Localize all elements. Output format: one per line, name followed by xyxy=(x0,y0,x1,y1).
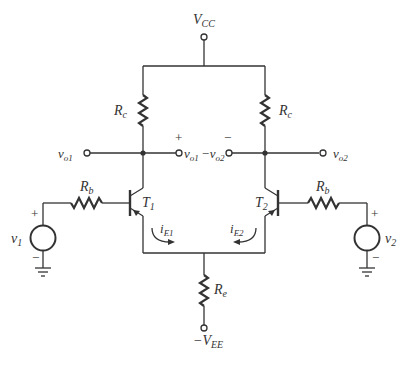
vo1-plus-sign: + xyxy=(175,130,182,145)
ie1-arrowhead xyxy=(168,239,175,245)
vee-terminal xyxy=(201,325,207,331)
re-resistor xyxy=(200,275,208,306)
vee-label: −VEE xyxy=(193,333,223,350)
differential-amplifier-schematic: VCC Rc Rc + − vo1 vo1 −vo2 vo2 Rb Rb T1 … xyxy=(0,0,412,365)
vo1-left-terminal xyxy=(84,150,90,156)
v2-minus-sign: − xyxy=(372,250,379,265)
v1-minus-sign: − xyxy=(32,250,39,265)
junction-left xyxy=(140,150,145,155)
rc-left-label: Rc xyxy=(113,103,128,120)
rb-right-label: Rb xyxy=(315,179,330,196)
vo2-minus-sign: − xyxy=(224,130,231,145)
vcc-terminal xyxy=(201,34,207,40)
rb-left-resistor xyxy=(71,198,102,208)
ie2-arrowhead xyxy=(233,239,240,245)
vo2-mid-label: −vo2 xyxy=(201,146,225,163)
v1-plus-sign: + xyxy=(31,206,38,221)
rb-right-resistor xyxy=(308,198,339,208)
ie1-label: iE1 xyxy=(160,221,174,238)
t2-label: T2 xyxy=(255,195,268,212)
rc-left-resistor xyxy=(139,95,147,126)
vcc-label: VCC xyxy=(193,12,215,29)
vo2-mid-terminal xyxy=(226,150,232,156)
v2-label: v2 xyxy=(385,231,396,248)
junction-right xyxy=(262,150,267,155)
v2-source xyxy=(355,226,380,251)
vo2-right-terminal xyxy=(320,150,326,156)
v1-label: v1 xyxy=(11,231,22,248)
re-label: Re xyxy=(213,282,228,299)
vo1-left-label: vo1 xyxy=(58,146,73,163)
rc-right-label: Rc xyxy=(278,103,293,120)
ie2-label: iE2 xyxy=(230,221,244,238)
vo2-right-label: vo2 xyxy=(333,146,348,163)
rc-right-resistor xyxy=(261,95,269,126)
v1-source xyxy=(31,226,56,251)
circuit-diagram: VCC Rc Rc + − vo1 vo1 −vo2 vo2 Rb Rb T1 … xyxy=(0,0,412,365)
t1-label: T1 xyxy=(142,195,155,212)
rb-left-label: Rb xyxy=(79,179,94,196)
vo1-mid-label: vo1 xyxy=(184,146,199,163)
t2-collector xyxy=(265,188,278,196)
vo1-mid-terminal xyxy=(176,150,182,156)
v2-plus-sign: + xyxy=(371,206,378,221)
